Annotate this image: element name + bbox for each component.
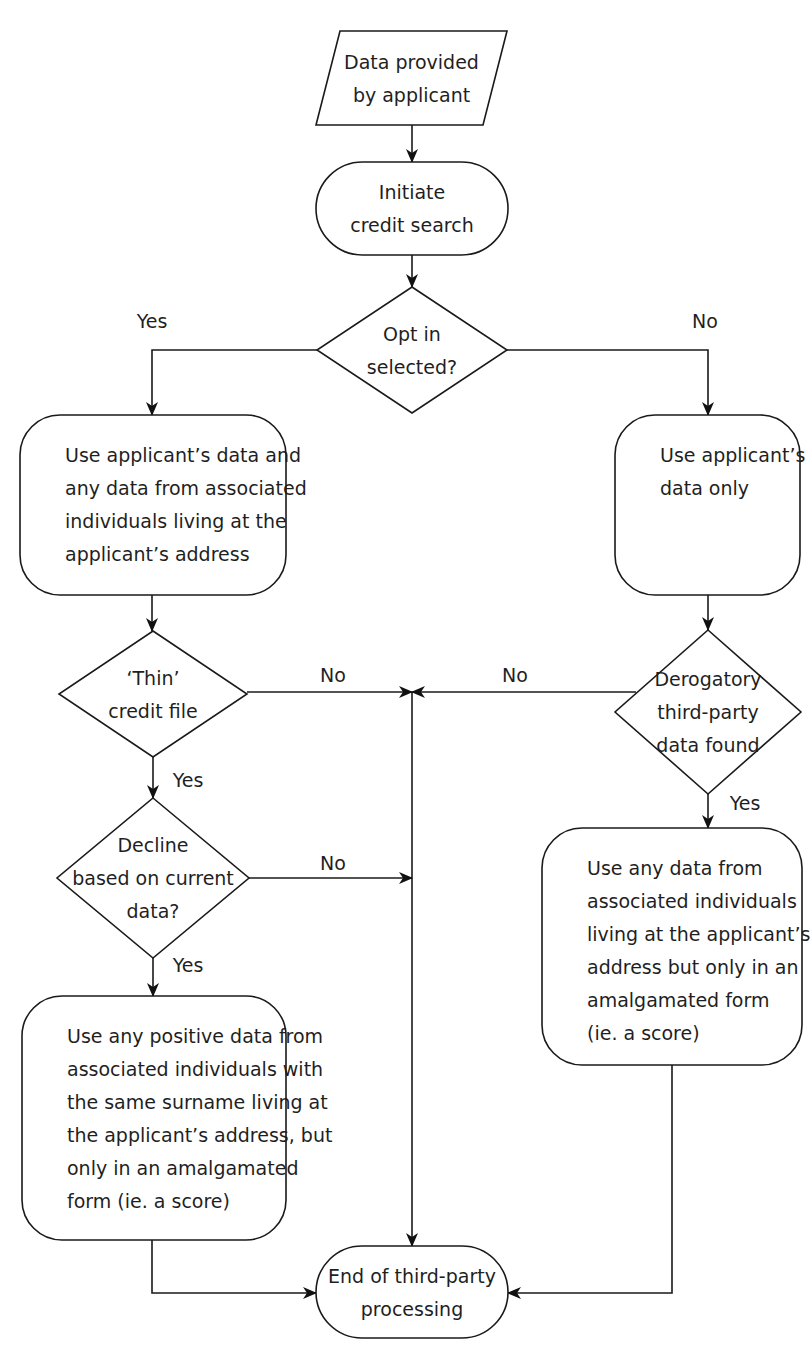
process-shape <box>615 415 800 595</box>
node-text-line: address but only in an <box>587 956 799 978</box>
node-decline: Declinebased on currentdata? <box>57 798 249 958</box>
edge-label-no: No <box>320 664 346 686</box>
node-text-line: Use any positive data from <box>67 1025 323 1047</box>
edge-optin-to-use-only <box>507 350 708 415</box>
process-shape <box>20 415 286 595</box>
node-text-line: Opt in <box>383 323 441 345</box>
node-text-line: the same surname living at <box>67 1091 328 1113</box>
node-text-line: Use applicant’s <box>660 444 805 466</box>
node-text-line: Use any data from <box>587 857 763 879</box>
edge-label-yes: Yes <box>729 792 761 814</box>
node-text-line: amalgamated form <box>587 989 769 1011</box>
terminator-shape <box>316 1246 508 1338</box>
edge-label-no: No <box>502 664 528 686</box>
edge-label-yes: Yes <box>172 769 204 791</box>
node-text-line: data only <box>660 477 749 499</box>
node-text-line: Data provided <box>344 51 479 73</box>
node-use-only: Use applicant’sdata only <box>615 415 805 595</box>
node-text-line: Use applicant’s data and <box>65 444 301 466</box>
edge-optin-to-use-assoc <box>152 350 317 415</box>
node-text-line: selected? <box>367 356 457 378</box>
edge-use-positive-to-end <box>152 1240 316 1293</box>
node-text-line: form (ie. a score) <box>67 1190 230 1212</box>
decision-shape <box>317 287 507 413</box>
node-text-line: applicant’s address <box>65 543 250 565</box>
node-use-amalg: Use any data fromassociated individualsl… <box>542 828 810 1065</box>
node-text-line: Decline <box>117 834 188 856</box>
node-optin: Opt inselected? <box>317 287 507 413</box>
node-derog: Derogatorythird-partydata found <box>615 630 801 794</box>
node-thin: ‘Thin’credit file <box>59 631 247 757</box>
parallelogram-shape <box>316 31 507 125</box>
node-use-assoc: Use applicant’s data andany data from as… <box>20 415 307 595</box>
node-text-line: associated individuals with <box>67 1058 323 1080</box>
node-input: Data providedby applicant <box>316 31 507 125</box>
node-text-line: by applicant <box>353 84 470 106</box>
edge-label-yes: Yes <box>136 310 168 332</box>
edge-label-no: No <box>692 310 718 332</box>
flowchart: Data providedby applicantInitiatecredit … <box>0 0 812 1355</box>
node-text-line: Initiate <box>379 181 445 203</box>
node-text-line: (ie. a score) <box>587 1022 700 1044</box>
node-text-line: data? <box>127 900 180 922</box>
edge-use-amalg-to-end <box>508 1065 672 1293</box>
terminator-shape <box>316 162 508 255</box>
node-text-line: data found <box>656 734 759 756</box>
node-text-line: credit file <box>108 700 197 722</box>
node-end: End of third-partyprocessing <box>316 1246 508 1338</box>
node-text-line: the applicant’s address, but <box>67 1124 332 1146</box>
node-text-line: ‘Thin’ <box>126 667 179 689</box>
node-text-line: credit search <box>350 214 473 236</box>
node-text-line: third-party <box>657 701 758 723</box>
node-text-line: processing <box>361 1298 463 1320</box>
node-text-line: only in an amalgamated <box>67 1157 298 1179</box>
edge-label-yes: Yes <box>172 954 204 976</box>
node-text-line: based on current <box>72 867 234 889</box>
node-initiate: Initiatecredit search <box>316 162 508 255</box>
node-text-line: any data from associated <box>65 477 307 499</box>
node-text-line: individuals living at the <box>65 510 287 532</box>
edge-label-no: No <box>320 852 346 874</box>
decision-shape <box>59 631 247 757</box>
node-text-line: Derogatory <box>654 668 761 690</box>
node-text-line: living at the applicant’s <box>587 923 810 945</box>
node-text-line: associated individuals <box>587 890 797 912</box>
node-text-line: End of third-party <box>328 1265 496 1287</box>
node-use-positive: Use any positive data fromassociated ind… <box>22 996 332 1240</box>
